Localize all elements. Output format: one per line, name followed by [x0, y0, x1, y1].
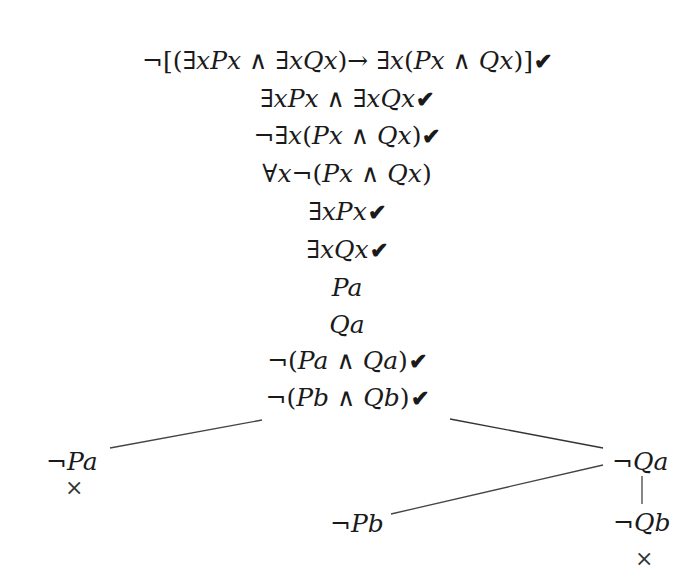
formula: ¬∃x(Px ∧ Qx)	[254, 121, 422, 150]
trunk-line-8: Qa	[0, 310, 694, 340]
formula: ¬[(∃xPx ∧ ∃xQx)→ ∃x(Px ∧ Qx)]	[142, 46, 533, 75]
trunk-line-10: ¬(Pb ∧ Qb)✔	[0, 383, 694, 413]
trunk-line-1: ¬[(∃xPx ∧ ∃xQx)→ ∃x(Px ∧ Qx)]✔	[0, 46, 694, 76]
formula: ∃xPx ∧ ∃xQx	[260, 84, 415, 113]
branch-line-right	[450, 419, 603, 448]
trunk-line-9: ¬(Pa ∧ Qa)✔	[0, 346, 694, 376]
trunk-line-4: ∀x¬(Px ∧ Qx)	[0, 159, 694, 189]
check-icon: ✔	[534, 48, 552, 74]
formula: ∀x¬(Px ∧ Qx)	[262, 159, 431, 188]
check-icon: ✔	[411, 385, 429, 411]
branch-node-negQb: ¬Qb	[613, 508, 670, 538]
branch-line-negPb	[391, 465, 603, 514]
branch-node-negPb: ¬Pb	[330, 509, 384, 539]
closed-branch-icon: ×	[635, 547, 653, 571]
closed-branch-icon: ×	[65, 476, 83, 500]
formula: ∃xPx	[308, 197, 367, 226]
check-icon: ✔	[422, 123, 440, 149]
trunk-line-5: ∃xPx✔	[0, 197, 694, 227]
formula: ¬(Pb ∧ Qb)	[265, 383, 409, 412]
formula: Pa	[332, 273, 363, 302]
check-icon: ✔	[370, 237, 388, 263]
branch-node-negQa: ¬Qa	[612, 447, 668, 477]
formula: Qa	[329, 310, 364, 339]
check-icon: ✔	[416, 86, 434, 112]
branch-line-left	[110, 420, 262, 448]
branch-node-negPa: ¬Pa	[46, 447, 98, 477]
check-icon: ✔	[368, 199, 386, 225]
trunk-line-6: ∃xQx✔	[0, 235, 694, 265]
formula: ¬(Pa ∧ Qa)	[267, 346, 408, 375]
check-icon: ✔	[409, 348, 427, 374]
formula: ∃xQx	[306, 235, 368, 264]
trunk-line-7: Pa	[0, 273, 694, 303]
trunk-line-2: ∃xPx ∧ ∃xQx✔	[0, 84, 694, 114]
trunk-line-3: ¬∃x(Px ∧ Qx)✔	[0, 121, 694, 151]
